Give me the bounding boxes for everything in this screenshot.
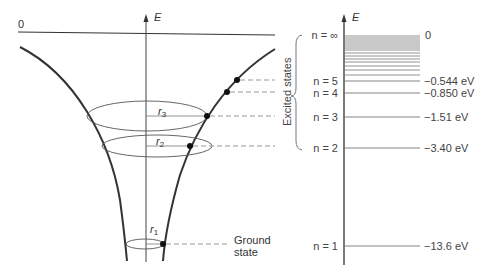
well-axis-arrow-icon	[144, 14, 149, 22]
energy-value-5: −0.544 eV	[424, 76, 474, 87]
n-label-1: n = 1	[298, 241, 338, 252]
radius-label-3: r3	[158, 106, 166, 117]
well-axis-label: E	[154, 12, 161, 23]
energy-value-2: −3.40 eV	[424, 143, 468, 154]
excited-states-label: Excited states	[281, 58, 293, 126]
ground-state-label-line1: Ground	[234, 235, 271, 246]
state-dot-5	[234, 77, 240, 83]
n-label-2: n = 2	[298, 143, 338, 154]
energy-axis-arrow-icon	[342, 14, 347, 22]
radius-label-2: r2	[156, 136, 164, 147]
energy-value-infinity: 0	[425, 30, 431, 41]
zero-label: 0	[18, 19, 24, 30]
energy-value-1: −13.6 eV	[424, 241, 468, 252]
n-label-infinity: n = ∞	[298, 30, 338, 41]
ground-state-label-line2: state	[234, 247, 258, 258]
energy-axis-label: E	[352, 12, 359, 23]
n-label-4: n = 4	[298, 88, 338, 99]
energy-value-3: −1.51 eV	[424, 112, 468, 123]
state-dot-3	[204, 113, 210, 119]
dense-levels	[344, 36, 420, 75]
state-dot-2	[187, 143, 193, 149]
radius-label-1: r1	[150, 224, 158, 235]
well-curve-right	[163, 49, 275, 261]
state-dot-4	[224, 89, 230, 95]
well-curve-left	[20, 47, 127, 261]
state-dot-1	[160, 241, 166, 247]
n-label-5: n = 5	[298, 76, 338, 87]
dashed-connectors	[166, 80, 275, 244]
n-label-3: n = 3	[298, 112, 338, 123]
energy-value-4: −0.850 eV	[424, 88, 474, 99]
